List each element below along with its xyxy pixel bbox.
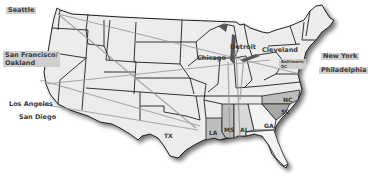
- city-label-sf-line2: Oakland: [5, 59, 35, 67]
- city-label-detroit: Detroit: [230, 44, 256, 51]
- state-label-nc: NC: [283, 96, 292, 103]
- city-label-chicago: Chicago: [197, 55, 226, 62]
- city-label-new-york: New York: [321, 53, 359, 60]
- state-label-ga: GA: [264, 122, 274, 129]
- city-label-seattle: Seattle: [6, 7, 36, 14]
- city-label-cleveland: Cleveland: [262, 47, 298, 54]
- state-label-al: AL: [240, 126, 248, 133]
- state-label-sc: SC: [281, 108, 290, 115]
- state-fl: [246, 130, 288, 166]
- us-landmass: [44, 5, 334, 168]
- city-label-philadelphia: Philadelphia: [319, 67, 368, 74]
- state-label-la: LA: [209, 129, 217, 136]
- state-label-tx: TX: [164, 132, 173, 139]
- city-label-san-francisco: San Francisco/ Oakland: [3, 51, 60, 67]
- state-label-ms: MS: [224, 126, 234, 133]
- city-label-baltimore-dc: Baltimore/ DC: [279, 59, 306, 69]
- city-label-sf-line1: San Francisco/: [5, 51, 58, 59]
- city-label-san-diego: San Diego: [19, 114, 56, 121]
- city-label-balt-line2: DC: [281, 64, 287, 69]
- city-label-los-angeles: Los Angeles: [9, 101, 53, 108]
